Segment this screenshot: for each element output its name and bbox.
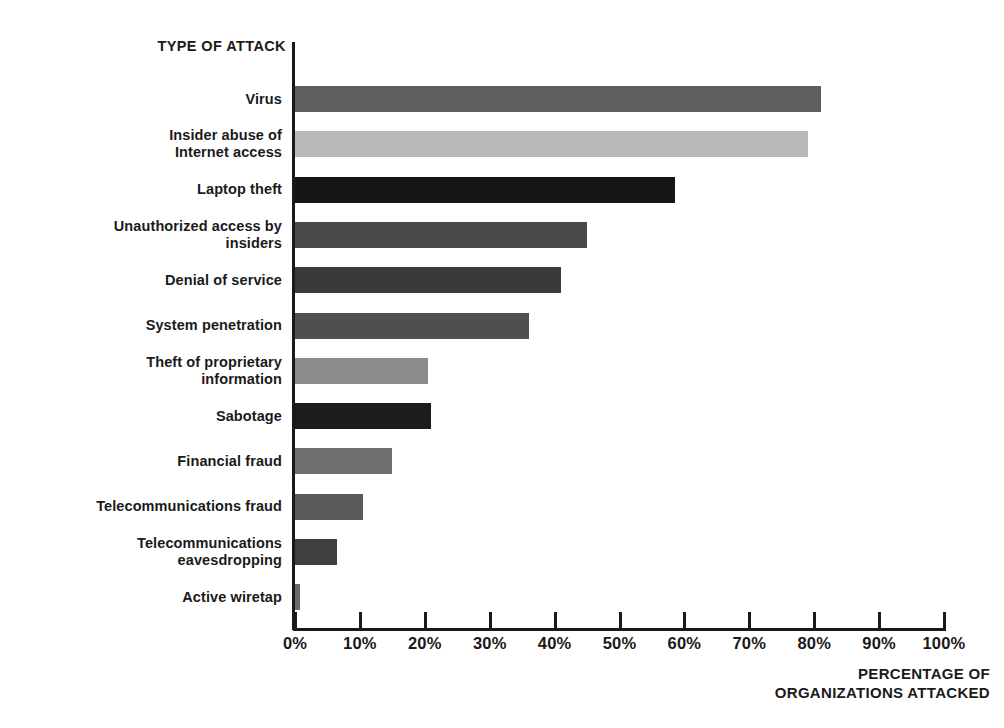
x-axis-tick [683,612,686,629]
bar-row: Telecommunications fraud [0,494,1004,520]
category-label: Theft of proprietary information [0,354,282,388]
bar-row: System penetration [0,313,1004,339]
x-axis-tick [359,612,362,629]
bar-row: Financial fraud [0,448,1004,474]
x-axis-tick-label: 20% [408,634,442,653]
category-label: Telecommunications eavesdropping [0,535,282,569]
bar [295,448,392,474]
x-axis-tick-label: 100% [922,634,965,653]
bar [295,358,428,384]
bar-chart: TYPE OF ATTACK 0%10%20%30%40%50%60%70%80… [0,0,1004,728]
x-axis-tick [294,612,297,629]
bar [295,494,363,520]
x-axis-tick [424,612,427,629]
bar [295,222,587,248]
category-label: Laptop theft [0,181,282,198]
category-label: Sabotage [0,408,282,425]
x-axis-title: PERCENTAGE OF ORGANIZATIONS ATTACKED [775,664,990,702]
bar [295,539,337,565]
category-label: Active wiretap [0,589,282,606]
bar-row: Theft of proprietary information [0,358,1004,384]
category-label: Insider abuse of Internet access [0,127,282,161]
x-axis-tick-label: 10% [343,634,377,653]
bar [295,403,431,429]
category-label: Telecommunications fraud [0,498,282,515]
bar-row: Denial of service [0,267,1004,293]
bar [295,86,821,112]
y-axis-title: TYPE OF ATTACK [157,38,286,54]
category-label: Virus [0,91,282,108]
x-axis-tick [943,612,946,629]
bar [295,313,529,339]
x-axis-tick [489,612,492,629]
bar-row: Insider abuse of Internet access [0,131,1004,157]
bar [295,267,561,293]
x-axis-tick [878,612,881,629]
bar-row: Laptop theft [0,177,1004,203]
category-label: Financial fraud [0,453,282,470]
x-axis-tick [554,612,557,629]
x-axis-tick [813,612,816,629]
bar [295,177,675,203]
x-axis-tick-label: 50% [603,634,637,653]
x-axis-tick-label: 60% [668,634,702,653]
x-axis-tick-label: 70% [732,634,766,653]
x-axis-tick [748,612,751,629]
category-label: System penetration [0,317,282,334]
category-label: Unauthorized access by insiders [0,218,282,252]
bar-row: Active wiretap [0,584,1004,610]
x-axis-tick-label: 0% [283,634,307,653]
x-axis-tick-label: 90% [862,634,896,653]
bar [295,131,808,157]
x-axis-tick-label: 30% [473,634,507,653]
category-label: Denial of service [0,272,282,289]
x-axis-tick-label: 40% [538,634,572,653]
bar-row: Telecommunications eavesdropping [0,539,1004,565]
bar [295,584,300,610]
bar-row: Sabotage [0,403,1004,429]
x-axis-tick [619,612,622,629]
bar-row: Virus [0,86,1004,112]
x-axis-tick-label: 80% [797,634,831,653]
bar-row: Unauthorized access by insiders [0,222,1004,248]
